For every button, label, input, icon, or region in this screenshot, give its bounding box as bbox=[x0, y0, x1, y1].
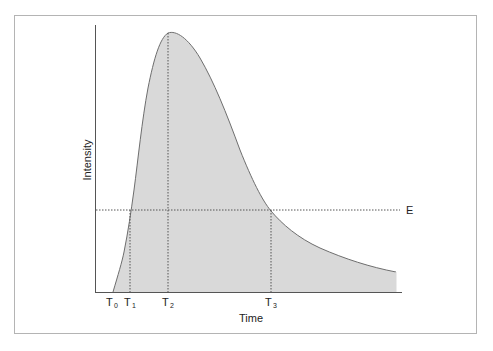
t1-subscript: 1 bbox=[132, 302, 136, 309]
t3-label: T bbox=[265, 296, 272, 308]
t2-subscript: 2 bbox=[170, 302, 174, 309]
x-axis-label: Time bbox=[239, 312, 263, 324]
t1-label: T bbox=[124, 296, 131, 308]
threshold-label: E bbox=[406, 204, 413, 216]
intensity-time-chart: Intensity Time E T 0 T 1 T 2 T 3 bbox=[0, 0, 493, 351]
t2-label: T bbox=[162, 296, 169, 308]
t0-subscript: 0 bbox=[114, 302, 118, 309]
t3-subscript: 3 bbox=[273, 302, 277, 309]
t0-label: T bbox=[106, 296, 113, 308]
intensity-area bbox=[113, 32, 396, 292]
y-axis-label: Intensity bbox=[81, 139, 93, 180]
